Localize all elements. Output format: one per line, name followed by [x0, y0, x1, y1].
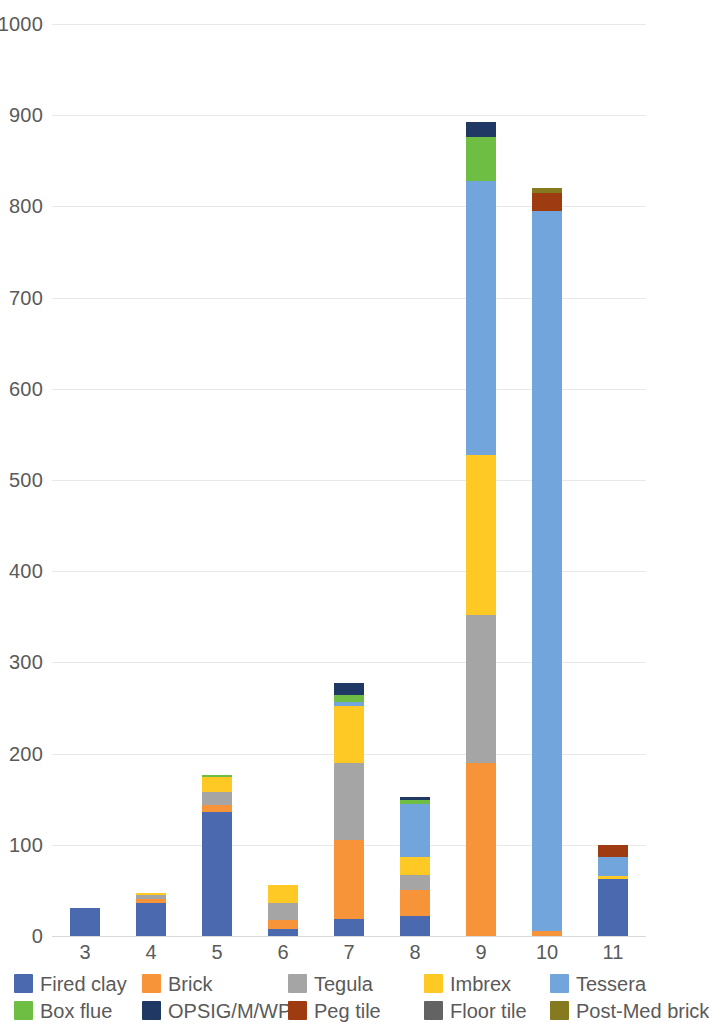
bar-segment-fired-clay[interactable] [202, 812, 232, 936]
legend-label: Brick [168, 974, 212, 994]
legend-swatch-icon [550, 1001, 569, 1020]
bar-segment-peg-tile[interactable] [532, 193, 562, 211]
bar-segment-tessera[interactable] [598, 857, 628, 876]
bar-segment-fired-clay[interactable] [334, 919, 364, 936]
y-axis-tick-label: 700 [9, 288, 43, 308]
legend-swatch-icon [550, 974, 569, 993]
y-axis-tick-label: 300 [9, 652, 43, 672]
bar-group[interactable]: 3 [70, 24, 100, 936]
legend-label: Box flue [40, 1001, 112, 1021]
bar-segment-box-flue[interactable] [466, 137, 496, 181]
y-axis-tick-label: 900 [9, 105, 43, 125]
bar-stack[interactable] [400, 797, 430, 937]
legend-swatch-icon [424, 974, 443, 993]
bar-segment-imbrex[interactable] [202, 777, 232, 792]
bar-segment-brick[interactable] [466, 763, 496, 936]
legend-label: Fired clay [40, 974, 127, 994]
bar-segment-opsig-m-wp[interactable] [334, 683, 364, 696]
y-axis-tick-label: 1000 [0, 14, 43, 34]
bar-segment-tegula[interactable] [202, 792, 232, 805]
y-axis-tick-label: 0 [32, 926, 43, 946]
y-axis-tick-label: 400 [9, 561, 43, 581]
legend-item-fired-clay[interactable]: Fired clay [14, 974, 142, 994]
bar-group[interactable]: 6 [268, 24, 298, 936]
legend-item-brick[interactable]: Brick [142, 974, 288, 994]
x-axis-tick-label: 3 [70, 942, 100, 962]
bar-segment-imbrex[interactable] [334, 706, 364, 763]
x-axis-tick-label: 10 [532, 942, 562, 962]
legend-label: Imbrex [450, 974, 511, 994]
legend-item-tessera[interactable]: Tessera [550, 974, 646, 994]
bar-segment-fired-clay[interactable] [400, 916, 430, 936]
bar-segment-tegula[interactable] [466, 615, 496, 763]
y-axis-tick-label: 800 [9, 196, 43, 216]
bar-group[interactable]: 9 [466, 24, 496, 936]
bars-layer: 34567891011 [52, 24, 646, 936]
legend-swatch-icon [288, 974, 307, 993]
legend-item-floor-tile[interactable]: Floor tile [424, 1001, 550, 1021]
legend-item-opsig-m-wp[interactable]: OPSIG/M/WP [142, 1001, 288, 1021]
bar-segment-brick[interactable] [400, 890, 430, 916]
bar-segment-brick[interactable] [334, 840, 364, 918]
bar-segment-brick[interactable] [532, 931, 562, 936]
x-axis-tick-label: 8 [400, 942, 430, 962]
legend-label: Tessera [576, 974, 646, 994]
bar-group[interactable]: 8 [400, 24, 430, 936]
chart-legend: Fired clayBrickTegulaImbrexTesseraBox fl… [14, 970, 646, 1024]
legend-label: Floor tile [450, 1001, 527, 1021]
bar-group[interactable]: 5 [202, 24, 232, 936]
legend-label: Post-Med brick [576, 1001, 709, 1021]
legend-swatch-icon [142, 974, 161, 993]
bar-segment-tegula[interactable] [268, 903, 298, 919]
x-axis-tick-label: 7 [334, 942, 364, 962]
bar-segment-opsig-m-wp[interactable] [466, 122, 496, 138]
bar-segment-tessera[interactable] [532, 211, 562, 931]
x-axis-tick-label: 5 [202, 942, 232, 962]
bar-segment-fired-clay[interactable] [268, 929, 298, 936]
legend-item-post-med-brick[interactable]: Post-Med brick [550, 1001, 646, 1021]
legend-item-box-flue[interactable]: Box flue [14, 1001, 142, 1021]
y-axis-tick-label: 500 [9, 470, 43, 490]
bar-segment-brick[interactable] [268, 920, 298, 929]
plot-area: 01002003004005006007008009001000 3456789… [52, 24, 646, 936]
bar-stack[interactable] [598, 845, 628, 936]
bar-group[interactable]: 11 [598, 24, 628, 936]
bar-segment-tegula[interactable] [400, 875, 430, 891]
bar-stack[interactable] [466, 122, 496, 936]
x-axis-tick-label: 9 [466, 942, 496, 962]
x-axis-tick-label: 6 [268, 942, 298, 962]
bar-group[interactable]: 7 [334, 24, 364, 936]
x-axis-tick-label: 11 [598, 942, 628, 962]
bar-segment-tegula[interactable] [334, 763, 364, 841]
legend-label: Tegula [314, 974, 373, 994]
bar-stack[interactable] [202, 775, 232, 936]
bar-stack[interactable] [334, 683, 364, 936]
bar-segment-fired-clay[interactable] [70, 908, 100, 936]
bar-segment-imbrex[interactable] [466, 455, 496, 615]
bar-segment-tessera[interactable] [400, 804, 430, 857]
legend-swatch-icon [14, 974, 33, 993]
bar-segment-imbrex[interactable] [400, 857, 430, 875]
legend-item-peg-tile[interactable]: Peg tile [288, 1001, 424, 1021]
bar-segment-tessera[interactable] [466, 181, 496, 456]
bar-segment-fired-clay[interactable] [598, 879, 628, 936]
x-axis-tick-label: 4 [136, 942, 166, 962]
bar-segment-brick[interactable] [202, 805, 232, 812]
bar-segment-fired-clay[interactable] [136, 903, 166, 936]
bar-segment-peg-tile[interactable] [598, 845, 628, 857]
bar-stack[interactable] [136, 893, 166, 936]
y-axis-tick-label: 100 [9, 835, 43, 855]
bar-stack[interactable] [268, 885, 298, 936]
bar-group[interactable]: 10 [532, 24, 562, 936]
legend-swatch-icon [424, 1001, 443, 1020]
legend-swatch-icon [14, 1001, 33, 1020]
bar-stack[interactable] [532, 188, 562, 936]
legend-item-imbrex[interactable]: Imbrex [424, 974, 550, 994]
bar-segment-imbrex[interactable] [268, 885, 298, 903]
legend-item-tegula[interactable]: Tegula [288, 974, 424, 994]
gridline: 0 [52, 936, 646, 937]
bar-group[interactable]: 4 [136, 24, 166, 936]
bar-stack[interactable] [70, 908, 100, 936]
legend-label: OPSIG/M/WP [168, 1001, 291, 1021]
